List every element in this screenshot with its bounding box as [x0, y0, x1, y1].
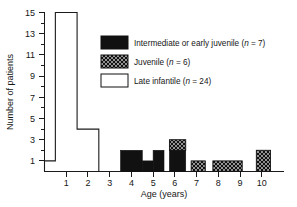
legend-label: Juvenile (n = 6) — [134, 58, 190, 67]
y-tick-label: 11 — [26, 50, 35, 60]
x-tick-label: 10 — [257, 178, 267, 188]
y-tick-label: 7 — [30, 93, 35, 103]
legend-swatch-juvenile — [101, 55, 128, 68]
x-tick-label: 2 — [85, 178, 90, 188]
legend-label: Intermediate or early juvenile (n = 7) — [134, 39, 266, 48]
y-tick-label: 13 — [25, 29, 35, 39]
data-bars-solid — [121, 150, 186, 171]
bar-segment-intermediate — [142, 161, 153, 172]
bar-segment-intermediate — [153, 150, 164, 171]
y-tick-label: 9 — [30, 71, 35, 81]
y-tick-label: 15 — [25, 8, 35, 18]
legend-label: Late infantile (n = 24) — [134, 77, 211, 86]
x-tick-label: 5 — [151, 178, 156, 188]
bar-segment-juvenile — [213, 161, 242, 172]
x-tick-label: 6 — [172, 178, 177, 188]
bar-segment-juvenile — [169, 140, 185, 151]
x-tick-label: 8 — [216, 178, 221, 188]
x-tick-label: 7 — [194, 178, 199, 188]
bar-segment-juvenile — [256, 150, 270, 171]
bar-segment-juvenile — [191, 161, 205, 172]
bar-segment-intermediate — [121, 150, 143, 171]
x-tick-label: 3 — [107, 178, 112, 188]
histogram-figure: 13579111315 12345678910 Age (years) Numb… — [0, 0, 297, 207]
legend-swatch-intermediate — [101, 36, 128, 49]
x-tick-label: 1 — [64, 178, 69, 188]
y-axis-title: Number of patients — [5, 53, 15, 130]
chart-svg: 13579111315 12345678910 Age (years) Numb… — [0, 0, 297, 207]
x-axis-title: Age (years) — [141, 189, 188, 199]
y-tick-label: 1 — [30, 156, 35, 166]
x-tick-label: 4 — [129, 178, 134, 188]
y-tick-label: 5 — [30, 114, 35, 124]
bar-segment-intermediate — [169, 150, 185, 171]
y-tick-label: 3 — [30, 135, 35, 145]
legend-swatch-late-infantile — [101, 74, 128, 87]
x-tick-label: 9 — [238, 178, 243, 188]
